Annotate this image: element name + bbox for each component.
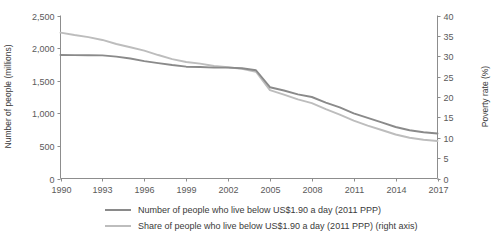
right-axis-title: Poverty rate (%) [480, 66, 490, 128]
chart-canvas: 05001,0001,5002,0002,500 Number of peopl… [0, 0, 497, 237]
right-tick-label: 25 [444, 73, 454, 83]
series-lines [61, 33, 438, 141]
x-tick-label: 2008 [302, 185, 322, 195]
x-tick-label: 2002 [218, 185, 238, 195]
x-tick-label: 2005 [260, 185, 280, 195]
x-tick-label: 1993 [92, 185, 112, 195]
right-axis-ticks: 0510152025303540 [438, 12, 454, 185]
x-tick-label: 1990 [51, 185, 71, 195]
left-tick-label: 2,500 [32, 12, 55, 22]
legend-label: Number of people who live below US$1.90 … [138, 205, 381, 215]
right-tick-label: 5 [444, 154, 449, 164]
left-axis-title: Number of people (millions) [3, 44, 13, 148]
left-axis-group: 05001,0001,5002,0002,500 Number of peopl… [3, 12, 61, 185]
legend-label: Share of people who live below US$1.90 a… [138, 221, 418, 231]
x-tick-label: 2014 [386, 185, 406, 195]
x-axis-group: 1990199319961999200220052008201120142017 [51, 179, 448, 195]
right-tick-label: 35 [444, 32, 454, 42]
right-tick-label: 40 [444, 12, 454, 22]
right-tick-label: 0 [444, 175, 449, 185]
x-tick-label: 2011 [345, 185, 364, 195]
x-tick-label: 1996 [134, 185, 154, 195]
x-tick-label: 1999 [176, 185, 196, 195]
right-axis-group: 0510152025303540 Poverty rate (%) [438, 12, 491, 185]
left-tick-label: 1,500 [32, 77, 55, 87]
right-tick-label: 30 [444, 52, 454, 62]
chart-legend: Number of people who live below US$1.90 … [105, 205, 418, 231]
right-tick-label: 20 [444, 93, 454, 103]
series-line [61, 55, 438, 134]
series-line [61, 33, 438, 141]
left-tick-label: 1,000 [32, 109, 55, 119]
left-tick-label: 2,000 [32, 44, 55, 54]
left-axis-ticks: 05001,0001,5002,0002,500 [32, 12, 61, 185]
left-tick-label: 0 [49, 175, 54, 185]
poverty-line-chart: 05001,0001,5002,0002,500 Number of peopl… [0, 0, 497, 237]
left-tick-label: 500 [39, 142, 54, 152]
right-tick-label: 15 [444, 113, 454, 123]
right-tick-label: 10 [444, 134, 454, 144]
x-axis-ticks: 1990199319961999200220052008201120142017 [51, 179, 448, 195]
x-tick-label: 2017 [428, 185, 448, 195]
